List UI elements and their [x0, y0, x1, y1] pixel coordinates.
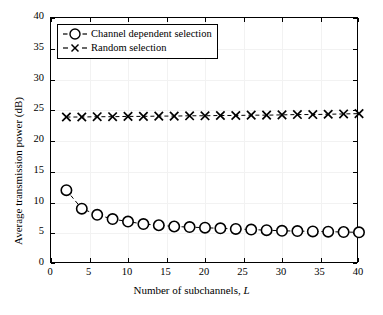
circle-marker-icon — [62, 27, 88, 41]
data-point-marker — [200, 223, 210, 233]
legend-item-channel-dependent-selection[interactable]: Channel dependent selection — [62, 27, 212, 41]
x-tick-label: 25 — [228, 266, 258, 277]
x-tick-label: 0 — [35, 266, 65, 277]
y-tick-label: 15 — [18, 164, 44, 175]
legend-item-random-selection[interactable]: Random selection — [62, 41, 212, 55]
figure-canvas: Average transmission power (dB) Channel … — [0, 0, 383, 315]
y-tick-label: 10 — [18, 195, 44, 206]
y-tick-label: 25 — [18, 102, 44, 113]
x-tick-label: 15 — [151, 266, 181, 277]
data-point-marker — [107, 214, 117, 224]
y-tick-label: 40 — [18, 10, 44, 21]
series-random-selection — [62, 109, 363, 121]
data-point-marker — [277, 226, 287, 236]
x-axis-title: Number of subchannels, L — [0, 284, 383, 296]
series-channel-dependent-selection — [61, 185, 364, 238]
data-point-marker — [292, 226, 302, 236]
legend-label: Random selection — [88, 41, 167, 55]
data-point-marker — [231, 224, 241, 234]
legend-box: Channel dependent selection Random selec… — [57, 24, 218, 59]
data-point-marker — [184, 222, 194, 232]
data-point-marker — [323, 227, 333, 237]
data-point-marker — [138, 219, 148, 229]
y-tick-label: 20 — [18, 133, 44, 144]
x-tick-label: 5 — [74, 266, 104, 277]
data-point-marker — [308, 226, 318, 236]
data-point-marker — [92, 210, 102, 220]
legend-label: Channel dependent selection — [88, 27, 212, 41]
y-tick-label: 5 — [18, 225, 44, 236]
x-tick-label: 40 — [343, 266, 373, 277]
x-marker-icon — [62, 41, 88, 55]
data-point-marker — [61, 185, 71, 195]
data-point-marker — [77, 203, 87, 213]
data-point-marker — [246, 224, 256, 234]
x-tick-label: 30 — [266, 266, 296, 277]
data-point-marker — [215, 223, 225, 233]
data-point-marker — [354, 227, 364, 237]
data-point-marker — [123, 216, 133, 226]
data-point-marker — [154, 220, 164, 230]
data-point-marker — [338, 227, 348, 237]
y-tick-label: 0 — [18, 256, 44, 267]
y-tick-label: 35 — [18, 41, 44, 52]
x-tick-label: 35 — [305, 266, 335, 277]
plot-area: Channel dependent selection Random selec… — [50, 17, 358, 263]
x-axis-title-main: Number of subchannels, — [133, 284, 240, 296]
x-axis-title-variable: L — [243, 284, 249, 296]
x-tick-label: 10 — [112, 266, 142, 277]
data-point-marker — [261, 225, 271, 235]
data-point-marker — [169, 221, 179, 231]
y-tick-label: 30 — [18, 72, 44, 83]
x-tick-label: 20 — [189, 266, 219, 277]
